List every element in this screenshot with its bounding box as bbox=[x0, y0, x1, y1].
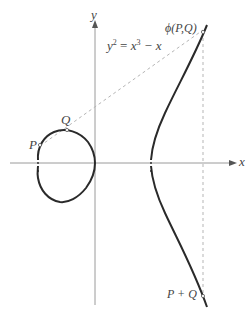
point-p-marker bbox=[38, 143, 41, 146]
elliptic-curve-diagram: y x y2 = x3 − x ϕ(P,Q) Q P P + Q bbox=[0, 0, 252, 319]
y-axis-label: y bbox=[91, 8, 97, 21]
intercept-marker-left bbox=[37, 162, 39, 164]
equation-lhs-exponent: 2 bbox=[113, 38, 117, 47]
label-q: Q bbox=[61, 113, 70, 126]
point-q-marker bbox=[65, 128, 68, 131]
label-phi-pq: ϕ(P,Q) bbox=[165, 22, 197, 34]
curve-equation: y2 = x3 − x bbox=[107, 39, 161, 52]
curve-oval bbox=[38, 130, 95, 202]
intercept-marker-right bbox=[150, 162, 152, 164]
point-sum-marker bbox=[201, 294, 204, 297]
equation-equals: = bbox=[120, 38, 127, 53]
intercept-marker-right-below bbox=[150, 170, 152, 172]
x-axis-label: x bbox=[239, 155, 245, 168]
point-phi-marker bbox=[201, 30, 204, 33]
intercept-marker-left-below bbox=[37, 170, 39, 172]
label-p-plus-q: P + Q bbox=[167, 288, 197, 300]
x-axis-arrow-icon bbox=[229, 160, 237, 166]
curve-branch-lower bbox=[151, 166, 207, 307]
equation-rhs-rest: − x bbox=[140, 38, 161, 53]
label-p: P bbox=[29, 138, 37, 151]
